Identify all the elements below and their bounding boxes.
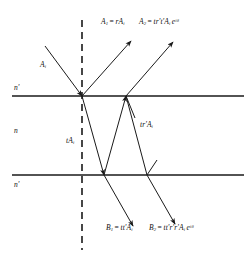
ray-label-b2: B2=tt'r'r'Aieiδ bbox=[149, 224, 194, 233]
ray-internal-second-leg bbox=[126, 96, 147, 175]
ray-label-a1: A1=rAi bbox=[101, 18, 125, 27]
ray-label-b1: B1=tt'Ai bbox=[106, 224, 133, 233]
b1-sub: 1 bbox=[111, 227, 113, 232]
b1-amp-sub: i bbox=[131, 227, 132, 232]
a2-sub: 2 bbox=[144, 21, 146, 26]
ray-refracted-into-film bbox=[82, 96, 104, 175]
ray-label-incident-sub: i bbox=[45, 64, 46, 69]
medium-label-upper-text: n' bbox=[14, 83, 20, 92]
medium-label-lower-text: n' bbox=[14, 180, 20, 189]
medium-label-lower: n' bbox=[14, 181, 20, 189]
a2-equals: = bbox=[148, 17, 152, 26]
ray-reflected-a1 bbox=[82, 41, 131, 96]
ray-reflected-a2 bbox=[126, 42, 173, 96]
ray-transmitted-b1 bbox=[104, 175, 133, 226]
b2-equals: = bbox=[158, 223, 162, 232]
ray-transmitted-b2 bbox=[147, 175, 175, 224]
a2-exp-power: iδ bbox=[175, 18, 179, 23]
ray-label-internal-reflected: tr'Ai bbox=[140, 121, 153, 130]
medium-label-film: n bbox=[14, 127, 18, 135]
b1-equals: = bbox=[115, 223, 119, 232]
medium-label-upper: n' bbox=[14, 84, 20, 92]
ray-label-a2: A2=tr't'Aieiδ bbox=[139, 18, 179, 27]
b2-exp-power: iδ bbox=[190, 224, 194, 229]
thin-film-diagram: n' n n' Ai A1=rAi A2=tr't'Aieiδ tAi tr'A… bbox=[0, 0, 250, 259]
a1-equals: = bbox=[110, 17, 114, 26]
medium-label-film-text: n bbox=[14, 126, 18, 135]
ray-internal-reflected bbox=[104, 96, 126, 175]
a1-amp-sub: i bbox=[123, 21, 124, 26]
b2-sub: 2 bbox=[154, 227, 156, 232]
trai-amp-sub: i bbox=[152, 124, 153, 129]
tai-amp-sub: i bbox=[73, 140, 74, 145]
ray-incident bbox=[45, 46, 82, 96]
a2-amp-sub: i bbox=[169, 21, 170, 26]
diagram-canvas bbox=[0, 0, 250, 259]
ray-label-internal-transmitted: tAi bbox=[66, 137, 74, 146]
ray-stub-bottom-vertex bbox=[147, 160, 157, 175]
a1-sub: 1 bbox=[106, 21, 108, 26]
b2-amp-sub: i bbox=[184, 227, 185, 232]
ray-label-incident: Ai bbox=[40, 61, 46, 70]
